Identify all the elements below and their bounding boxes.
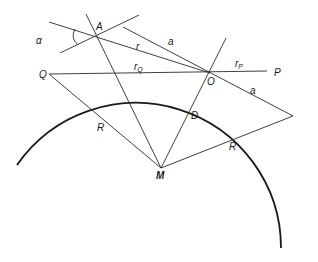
label-r-p: rP [235,58,243,70]
label-alpha: α [36,35,42,46]
label-m-point: M [156,170,165,181]
label-p-point: P [274,67,281,78]
label-q-point: Q [39,69,47,80]
line-m-o-extended [161,38,226,168]
label-a-point: A [95,21,103,32]
geometry-figure: α A r a rQ O rP P a Q R D M R [0,0,318,262]
radius-m-b [161,116,293,168]
label-r-right: R [229,141,236,152]
label-r-left: R [97,122,104,133]
label-a-right: a [250,85,256,96]
line-a-to-m [86,14,161,168]
chord-q-p [49,71,267,74]
line-a-to-o [49,22,210,73]
label-d: D [191,110,198,121]
label-o-point: O [207,76,215,87]
label-a-top: a [168,36,174,47]
label-r-q: rQ [134,61,143,74]
circle-arc [17,103,281,248]
